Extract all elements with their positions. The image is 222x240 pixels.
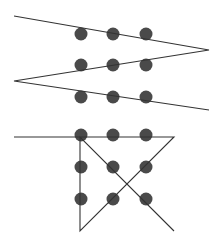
dot [75,129,88,142]
dot [107,129,120,142]
solution-path [14,137,174,231]
puzzle-three-lines [14,16,209,110]
puzzle-four-lines [14,129,174,232]
dot [107,193,120,206]
dot [140,129,153,142]
dot [75,28,88,41]
dot [107,91,120,104]
dot [75,193,88,206]
dot [75,161,88,174]
dot [140,161,153,174]
dot [107,161,120,174]
dot [75,91,88,104]
nine-dots-diagram [0,0,222,240]
